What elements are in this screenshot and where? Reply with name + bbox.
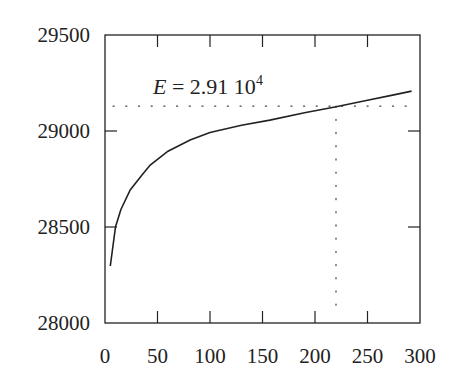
x-tick-label: 250 bbox=[352, 344, 384, 368]
x-tick-label: 0 bbox=[100, 344, 111, 368]
x-tick-label: 100 bbox=[194, 344, 226, 368]
y-tick-label: 28000 bbox=[38, 311, 91, 335]
annotation-value: = 2.91 10 bbox=[166, 74, 255, 99]
annotation-exponent: 4 bbox=[256, 73, 263, 88]
x-tick-label: 50 bbox=[147, 344, 168, 368]
line-chart: 05010015020025030028000285002900029500 E… bbox=[0, 0, 463, 384]
energy-curve bbox=[110, 91, 411, 266]
reference-lines bbox=[113, 106, 416, 317]
y-tick-label: 29000 bbox=[38, 119, 91, 143]
x-tick-label: 200 bbox=[299, 344, 331, 368]
y-tick-label: 29500 bbox=[38, 23, 91, 47]
y-tick-label: 28500 bbox=[38, 215, 91, 239]
x-tick-label: 150 bbox=[247, 344, 279, 368]
x-tick-label: 300 bbox=[404, 344, 436, 368]
energy-annotation: E = 2.91 104 bbox=[152, 73, 263, 99]
annotation-variable: E bbox=[152, 74, 167, 99]
